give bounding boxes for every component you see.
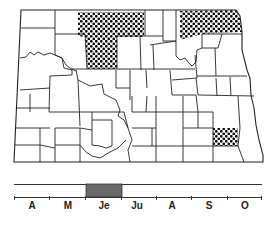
month-label-june: Je [98,200,109,211]
stipple-north-central [78,12,144,69]
distribution-figure: A M Je Ju A S O [0,0,272,229]
month-label-august: A [168,200,175,211]
month-label-may: M [64,200,72,211]
stipple-southeast [213,128,238,146]
stipple-northeast [180,10,242,40]
month-label-july: Ju [131,200,143,211]
county-map [0,0,272,229]
highlighted-areas [78,10,242,146]
active-period-bar [86,184,122,197]
month-label-september: S [206,200,213,211]
phenology-timeline [14,184,262,200]
month-label-october: O [241,200,249,211]
month-label-april: A [28,200,35,211]
